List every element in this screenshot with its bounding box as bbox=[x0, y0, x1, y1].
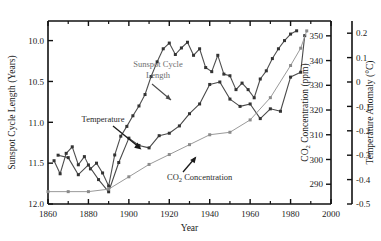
data-point bbox=[283, 39, 286, 42]
data-point bbox=[113, 153, 116, 156]
data-point bbox=[277, 47, 280, 50]
data-point bbox=[234, 88, 237, 91]
x-tick-label: 2000 bbox=[322, 209, 341, 219]
sunspot-co2-temperature-chart: Sunspot CycleLengthTemperatureCO2 Concen… bbox=[0, 0, 381, 241]
y-tick-label-co2: 320 bbox=[310, 105, 324, 115]
data-point bbox=[53, 159, 56, 162]
y-tick-label-co2: 300 bbox=[310, 155, 324, 165]
data-point bbox=[289, 33, 292, 36]
data-point bbox=[168, 42, 171, 45]
x-axis-title: Year bbox=[181, 223, 199, 233]
data-point bbox=[228, 98, 231, 101]
data-point bbox=[87, 190, 90, 193]
data-point bbox=[83, 155, 86, 158]
data-point bbox=[77, 173, 80, 176]
annotation-sunspot-line2: Length bbox=[146, 70, 171, 80]
data-point bbox=[305, 29, 308, 32]
annotation-sunspot-line1: Sunspot Cycle bbox=[133, 59, 183, 69]
data-point bbox=[289, 64, 292, 67]
data-point bbox=[158, 134, 161, 137]
annotation-temperature-label: Temperature bbox=[82, 114, 125, 124]
data-point bbox=[97, 178, 100, 181]
data-point bbox=[259, 78, 262, 81]
data-point bbox=[57, 154, 60, 157]
data-point bbox=[239, 105, 242, 108]
x-tick-label: 1880 bbox=[79, 209, 98, 219]
data-point bbox=[180, 46, 183, 49]
data-point bbox=[131, 114, 134, 117]
data-point bbox=[107, 188, 110, 191]
data-point bbox=[67, 156, 70, 159]
data-point bbox=[77, 163, 80, 166]
x-tick-label: 1980 bbox=[282, 209, 301, 219]
data-point bbox=[208, 83, 211, 86]
data-point bbox=[192, 54, 195, 57]
data-point bbox=[216, 54, 219, 57]
figure-container: Sunspot CycleLengthTemperatureCO2 Concen… bbox=[0, 0, 381, 241]
data-point bbox=[228, 74, 231, 77]
y-tick-label-co2: 290 bbox=[310, 179, 324, 189]
data-point bbox=[259, 117, 262, 120]
data-point bbox=[269, 96, 272, 99]
data-point bbox=[204, 66, 207, 69]
data-point bbox=[249, 118, 252, 121]
data-point bbox=[188, 112, 191, 115]
data-point bbox=[148, 146, 151, 149]
data-point bbox=[101, 171, 104, 174]
data-point bbox=[107, 190, 110, 193]
y-tick-label-co2: 330 bbox=[310, 80, 324, 90]
y-tick-label-left: 10.0 bbox=[28, 36, 44, 46]
y-tick-label-temperature: -0.5 bbox=[356, 199, 371, 209]
data-point bbox=[247, 88, 250, 91]
y-tick-label-left: 12.0 bbox=[28, 199, 44, 209]
data-point bbox=[168, 153, 171, 156]
y-tick-label-left: 11.0 bbox=[29, 118, 45, 128]
data-point bbox=[144, 93, 147, 96]
data-point bbox=[208, 133, 211, 136]
data-point bbox=[186, 41, 189, 44]
data-point bbox=[148, 163, 151, 166]
annotation-co2-label: CO2 Concentration bbox=[167, 172, 233, 183]
data-point bbox=[119, 135, 122, 138]
chart-background bbox=[0, 0, 381, 241]
y-tick-label-temperature: 0 bbox=[356, 77, 361, 87]
data-point bbox=[253, 96, 256, 99]
data-point bbox=[178, 124, 181, 127]
data-point bbox=[168, 132, 171, 135]
data-point bbox=[271, 57, 274, 60]
y-tick-label-temperature: -0.4 bbox=[356, 175, 371, 185]
data-point bbox=[117, 161, 120, 164]
data-point bbox=[228, 131, 231, 134]
y-tick-label-temperature: 0.2 bbox=[356, 28, 367, 38]
data-point bbox=[269, 107, 272, 110]
x-tick-label: 1920 bbox=[160, 209, 179, 219]
data-point bbox=[198, 47, 201, 50]
data-point bbox=[67, 190, 70, 193]
y-tick-label-left: 10.5 bbox=[28, 77, 44, 87]
data-point bbox=[218, 81, 221, 84]
data-point bbox=[198, 102, 201, 105]
data-point bbox=[125, 125, 128, 128]
y-axis-title-left: Sunspot Cycle Length (Years) bbox=[7, 55, 18, 169]
x-tick-label: 1900 bbox=[120, 209, 139, 219]
data-point bbox=[210, 70, 213, 73]
y-axis-title-temperature: Temperature Anomaly (°C) bbox=[365, 61, 376, 165]
y-tick-label-co2: 340 bbox=[310, 56, 324, 66]
y-tick-label-co2: 350 bbox=[310, 31, 324, 41]
x-tick-label: 1940 bbox=[201, 209, 220, 219]
x-tick-label: 1860 bbox=[39, 209, 58, 219]
data-point bbox=[279, 110, 282, 113]
data-point bbox=[95, 162, 98, 165]
data-point bbox=[299, 47, 302, 50]
x-tick-label: 1960 bbox=[241, 209, 260, 219]
data-point bbox=[295, 29, 298, 32]
data-point bbox=[65, 152, 68, 155]
data-point bbox=[241, 82, 244, 85]
data-point bbox=[289, 76, 292, 79]
data-point bbox=[174, 53, 177, 56]
data-point bbox=[87, 163, 90, 166]
y-tick-label-co2: 310 bbox=[310, 130, 324, 140]
data-point bbox=[137, 104, 140, 107]
y-tick-label-left: 11.5 bbox=[29, 158, 45, 168]
data-point bbox=[71, 145, 74, 148]
